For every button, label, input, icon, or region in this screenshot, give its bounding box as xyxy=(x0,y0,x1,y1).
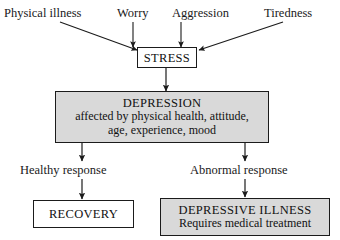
node-depressive-illness: DEPRESSIVE ILLNESS Requires medical trea… xyxy=(160,198,330,236)
node-stress: STRESS xyxy=(137,47,197,68)
node-depression: DEPRESSION affected by physical health, … xyxy=(55,91,269,143)
node-depression-title: DEPRESSION xyxy=(123,96,202,110)
input-label-tiredness: Tiredness xyxy=(264,7,312,20)
node-recovery-title: RECOVERY xyxy=(49,207,118,221)
node-depression-line3: age, experience, mood xyxy=(108,124,216,137)
connector-physical-illness-to-stress xyxy=(60,22,137,50)
input-label-physical-illness: Physical illness xyxy=(4,7,81,20)
input-label-worry: Worry xyxy=(117,7,149,20)
node-recovery: RECOVERY xyxy=(33,200,134,228)
node-depression-line2: affected by physical health, attitude, xyxy=(75,110,249,123)
connector-tiredness-to-stress xyxy=(199,22,283,50)
node-stress-title: STRESS xyxy=(144,51,190,65)
branch-label-abnormal-response: Abnormal response xyxy=(190,164,288,177)
input-label-aggression: Aggression xyxy=(172,7,229,20)
node-depressive-illness-title: DEPRESSIVE ILLNESS xyxy=(179,203,312,217)
node-depressive-illness-line2: Requires medical treatment xyxy=(179,217,311,230)
branch-label-healthy-response: Healthy response xyxy=(20,164,106,177)
diagram-canvas: Physical illness Worry Aggression Tiredn… xyxy=(0,0,340,240)
